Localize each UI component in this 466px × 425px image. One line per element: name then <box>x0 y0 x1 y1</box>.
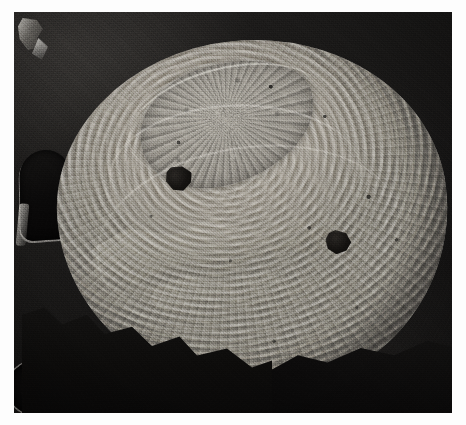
micrograph-frame <box>14 12 452 413</box>
micrograph-page <box>0 0 466 425</box>
sem-grain-coarse <box>14 12 452 413</box>
